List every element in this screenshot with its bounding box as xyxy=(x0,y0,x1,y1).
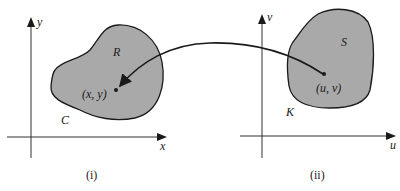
y-axis-arrow-icon xyxy=(27,17,35,27)
panel-i: y x R C (x, y) (i) xyxy=(7,15,167,182)
boundary-label: K xyxy=(285,105,295,119)
panel-ii: v u S K (u, v) (ii) xyxy=(240,9,396,182)
region-r xyxy=(51,25,163,120)
region-label: S xyxy=(341,35,347,49)
u-axis-label: u xyxy=(390,138,396,152)
point-xy xyxy=(114,88,118,92)
point-label: (u, v) xyxy=(316,81,341,95)
transformation-diagram: y x R C (x, y) (i) v u S K (u, v) (ii) xyxy=(0,0,400,191)
point-label: (x, y) xyxy=(82,87,107,101)
region-label: R xyxy=(112,45,121,59)
x-axis-label: x xyxy=(159,139,166,153)
y-axis-label: y xyxy=(36,15,43,29)
caption-i: (i) xyxy=(86,168,97,182)
boundary-label: C xyxy=(61,113,70,127)
v-axis-label: v xyxy=(267,10,273,24)
v-axis-arrow-icon xyxy=(258,14,266,24)
caption-ii: (ii) xyxy=(310,168,325,182)
